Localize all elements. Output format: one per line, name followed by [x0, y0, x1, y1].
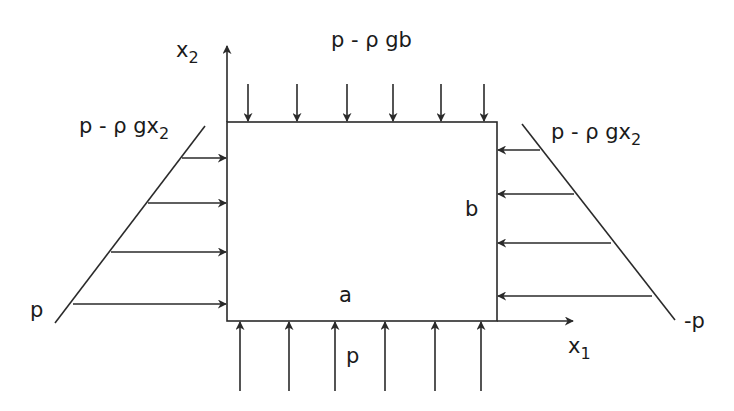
right-load-arrows	[498, 150, 652, 296]
right-top-load-label: p - ρ gx2	[551, 122, 641, 148]
x1-axis-label: x1	[568, 336, 591, 362]
block-rectangle	[227, 122, 497, 321]
right-pressure-envelope	[522, 124, 675, 320]
right-bottom-load-label: -p	[684, 311, 705, 332]
left-top-load-label: p - ρ gx2	[79, 116, 169, 142]
width-label-a: a	[339, 285, 352, 306]
left-pressure-envelope	[55, 126, 205, 323]
left-load-arrows	[73, 158, 226, 304]
top-load-label: p - ρ gb	[331, 30, 412, 51]
top-load-arrows	[248, 84, 484, 121]
bottom-load-label: p	[346, 346, 359, 367]
height-label-b: b	[465, 199, 478, 220]
left-bottom-load-label: p	[30, 300, 43, 321]
bottom-load-arrows	[240, 322, 481, 391]
diagram-canvas	[0, 0, 734, 411]
x2-axis-label: x2	[176, 40, 199, 66]
